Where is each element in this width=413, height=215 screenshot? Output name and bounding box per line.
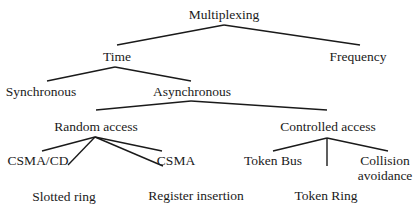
node-asynchronous: Asynchronous [153,85,231,99]
node-multiplexing: Multiplexing [189,8,260,22]
edge-time-synchronous [47,67,115,81]
node-csma-cd: CSMA/CD [8,154,69,168]
node-slotted-ring: Slotted ring [32,190,95,204]
tree-edges [0,0,413,215]
node-register-insertion: Register insertion [148,189,244,203]
multiplexing-tree-diagram: Multiplexing Time Frequency Synchronous … [0,0,413,215]
node-token-bus: Token Bus [244,154,302,168]
edge-random-register-insertion [95,137,163,166]
node-collision-avoidance-line2: avoidance [358,169,413,183]
edge-asynchronous-controlled-access [191,101,327,110]
edge-asynchronous-random-access [96,101,191,110]
node-collision-avoidance-line1: Collision [360,154,410,168]
edge-time-asynchronous [115,67,191,81]
node-time: Time [103,50,131,64]
node-token-ring: Token Ring [294,189,357,203]
node-synchronous: Synchronous [6,85,77,99]
edge-multiplexing-time [117,25,224,45]
node-controlled-access: Controlled access [280,120,376,134]
edge-controlled-token-bus [273,138,327,151]
node-random-access: Random access [54,120,138,134]
edge-controlled-collision-avoidance [327,138,388,151]
node-frequency: Frequency [330,50,387,64]
edge-multiplexing-frequency [224,25,360,45]
edge-random-csma [95,137,162,151]
edge-random-csmacd [42,137,95,151]
node-csma: CSMA [157,154,195,168]
